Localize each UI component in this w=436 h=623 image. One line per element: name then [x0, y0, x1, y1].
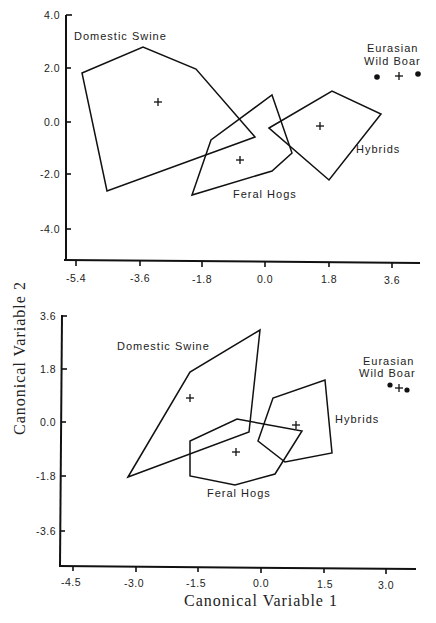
top-domestic-swine-hull [82, 47, 255, 191]
top-y-tick-label: 4.0 [44, 9, 60, 21]
y-axis-title: Canonical Variable 2 [11, 281, 28, 435]
top-x-axis [64, 260, 420, 263]
top-y-tick-label: -4.0 [40, 223, 60, 235]
bottom-x-tick-label: 1.5 [317, 578, 333, 590]
bottom-x-tick-label: -1.5 [186, 577, 206, 589]
bottom-y-axis [60, 315, 62, 566]
top-label-hybrids: Hybrids [356, 143, 400, 155]
bottom-x-tick-label: 3.0 [378, 579, 394, 591]
bottom-wild-boar-centroid-icon [395, 384, 403, 392]
top-feral-hogs-hull [192, 95, 292, 195]
top-x-tick-label: -1.8 [192, 273, 212, 285]
bottom-x-tick-label: -4.5 [61, 576, 81, 588]
top-x-tick-label: -5.4 [66, 272, 86, 284]
bottom-wild-boar-point-icon [404, 387, 409, 392]
top-y-tick-label: 2.0 [44, 62, 60, 74]
bottom-label-wild-boar-line1: Eurasian [363, 355, 414, 367]
top-feral-hogs-centroid-icon [236, 156, 244, 164]
top-label-wild-boar-line1: Eurasian [367, 42, 418, 54]
top-wild-boar-point-icon [415, 71, 421, 77]
top-y-tick-label: 0.0 [44, 116, 60, 128]
bottom-label-wild-boar-line2: Wild Boar [359, 367, 416, 379]
top-x-tick-label: 1.8 [321, 273, 337, 285]
top-x-tick-label: 3.6 [384, 274, 400, 286]
bottom-y-tick-label: -1.8 [36, 470, 56, 482]
bottom-label-domestic-swine: Domestic Swine [117, 340, 210, 352]
top-y-tick-label: -2.0 [40, 168, 60, 180]
top-label-wild-boar-line2: Wild Boar [364, 55, 421, 67]
bottom-feral-hogs-hull [190, 419, 302, 485]
bottom-hybrids-hull [258, 380, 332, 462]
top-wild-boar-point-icon [374, 74, 380, 80]
bottom-domestic-swine-centroid-icon [186, 394, 194, 402]
top-panel: 4.0 2.0 0.0 -2.0 -4.0 -5.4 -3.6 -1.8 0.0… [40, 9, 421, 286]
bottom-x-tick-label: -3.0 [124, 577, 144, 589]
top-wild-boar-centroid-icon [395, 72, 403, 80]
bottom-label-feral-hogs: Feral Hogs [207, 487, 271, 499]
x-axis-title: Canonical Variable 1 [184, 592, 338, 609]
bottom-x-axis [59, 566, 416, 569]
bottom-y-tick-label: 3.6 [40, 310, 56, 322]
top-label-domestic-swine: Domestic Swine [74, 30, 167, 42]
bottom-feral-hogs-centroid-icon [232, 448, 240, 456]
top-hybrids-centroid-icon [316, 122, 324, 130]
top-x-tick-label: -3.6 [130, 272, 150, 284]
top-domestic-swine-centroid-icon [154, 98, 162, 106]
canonical-variates-figure: 4.0 2.0 0.0 -2.0 -4.0 -5.4 -3.6 -1.8 0.0… [0, 0, 436, 623]
bottom-panel: 3.6 1.8 0.0 -1.8 -3.6 -4.5 -3.0 -1.5 0.0… [36, 310, 416, 591]
bottom-label-hybrids: Hybrids [335, 413, 379, 425]
bottom-y-tick-label: 1.8 [40, 363, 56, 375]
bottom-x-tick-label: 0.0 [253, 577, 269, 589]
top-label-feral-hogs: Feral Hogs [233, 188, 297, 200]
bottom-hybrids-centroid-icon [292, 421, 300, 429]
bottom-wild-boar-point-icon [387, 382, 392, 387]
bottom-y-tick-label: 0.0 [40, 416, 56, 428]
top-x-tick-label: 0.0 [257, 273, 273, 285]
bottom-domestic-swine-hull [128, 330, 260, 477]
bottom-y-tick-label: -3.6 [36, 525, 56, 537]
